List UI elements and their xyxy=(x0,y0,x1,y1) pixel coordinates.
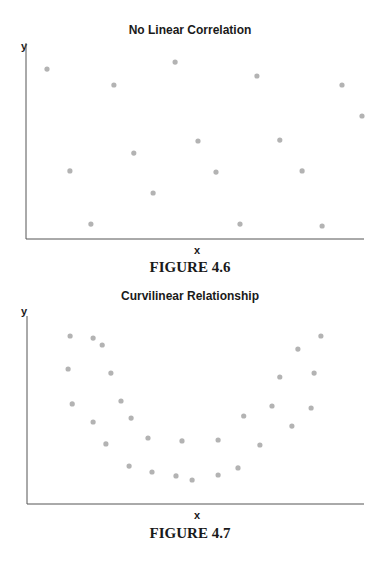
data-point xyxy=(91,419,96,424)
data-point xyxy=(235,465,240,470)
data-point xyxy=(129,416,134,421)
data-point xyxy=(216,472,221,477)
data-point xyxy=(295,347,300,352)
data-point xyxy=(241,413,246,418)
data-point xyxy=(91,336,96,341)
data-point xyxy=(173,473,178,478)
data-point xyxy=(289,424,294,429)
data-point xyxy=(318,333,323,338)
data-point xyxy=(66,366,71,371)
data-point xyxy=(257,442,262,447)
data-point xyxy=(277,374,282,379)
data-point xyxy=(179,438,184,443)
data-point xyxy=(118,398,123,403)
x-axis-label: x xyxy=(194,509,200,521)
data-point xyxy=(100,342,105,347)
figure-caption: FIGURE 4.7 xyxy=(0,525,380,542)
data-point xyxy=(149,469,154,474)
data-point xyxy=(312,371,317,376)
data-point xyxy=(145,435,150,440)
data-point xyxy=(68,333,73,338)
data-point xyxy=(70,401,75,406)
data-point xyxy=(127,464,132,469)
data-point xyxy=(309,405,314,410)
scatter-plot xyxy=(0,0,380,520)
data-point xyxy=(216,437,221,442)
data-point xyxy=(269,403,274,408)
data-point xyxy=(103,441,108,446)
figure-4-7: Curvilinear Relationship y x FIGURE 4.7 xyxy=(0,0,380,565)
data-point xyxy=(108,371,113,376)
data-point xyxy=(190,477,195,482)
